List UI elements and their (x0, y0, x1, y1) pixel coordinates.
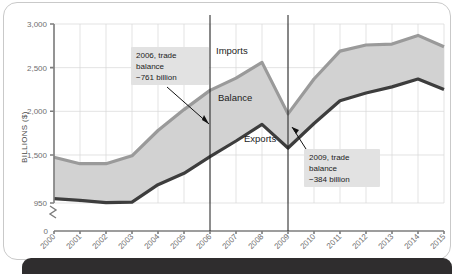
exports-label: Exports (244, 133, 276, 144)
plot-area (54, 35, 444, 202)
imports-label: Imports (216, 45, 248, 56)
figure-card: BILLIONS ($) 9501,5002,0002,5003,000 0 2… (3, 2, 451, 260)
x-tick-label: 2004 (142, 232, 161, 251)
x-tick-label: 2014 (402, 232, 421, 251)
annotation-2006-line-3: −761 billion (136, 73, 177, 82)
annotation-2009-line-2: balance (309, 164, 338, 173)
x-tick-label: 2015 (428, 232, 447, 251)
balance-label: Balance (218, 92, 252, 103)
annotation-2006-line-1: 2006, trade (136, 51, 177, 60)
y-tick-label: 3,000 (27, 20, 48, 29)
x-tick-label: 2012 (350, 232, 369, 251)
y-tick-label: 1,500 (27, 151, 48, 160)
x-tick-label: 2008 (246, 232, 265, 251)
x-tick-label: 2005 (168, 232, 187, 251)
y-tick-label: 2,000 (27, 107, 48, 116)
x-tick-label: 2001 (64, 232, 83, 251)
axis-break-icon (50, 206, 56, 218)
y-tick-label: 2,500 (27, 64, 48, 73)
x-tick-label: 2009 (272, 232, 291, 251)
x-axis: 2000200120022003200420052006200720082009… (38, 231, 447, 251)
annotation-2009: 2009, trade balance −384 billion (292, 127, 380, 187)
annotation-2009-line-1: 2009, trade (309, 153, 350, 162)
x-tick-label: 2011 (325, 232, 344, 251)
x-tick-label: 2013 (376, 232, 395, 251)
balance-band (54, 35, 444, 202)
x-tick-label: 2002 (90, 232, 109, 251)
trade-balance-chart: BILLIONS ($) 9501,5002,0002,5003,000 0 2… (4, 3, 451, 260)
footer-bar (22, 258, 452, 274)
y-tick-label: 950 (34, 199, 48, 208)
x-tick-label: 2003 (116, 232, 135, 251)
x-tick-label: 2007 (220, 232, 239, 251)
x-tick-label: 2006 (194, 232, 213, 251)
annotation-2009-line-3: −384 billion (309, 175, 350, 184)
x-tick-label: 2010 (298, 232, 317, 251)
x-tick-label: 2000 (38, 232, 57, 251)
annotation-2006-line-2: balance (136, 62, 165, 71)
